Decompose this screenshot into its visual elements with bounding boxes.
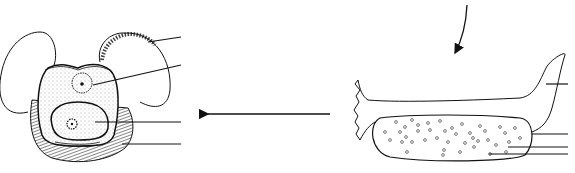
curved-down-arrow [455, 5, 467, 53]
left-figure [0, 32, 181, 162]
label-line-1 [148, 37, 181, 42]
large-generative-cell [51, 102, 108, 140]
right-figure [354, 54, 568, 161]
torn-edge [354, 80, 360, 140]
diagram-canvas [0, 0, 575, 173]
